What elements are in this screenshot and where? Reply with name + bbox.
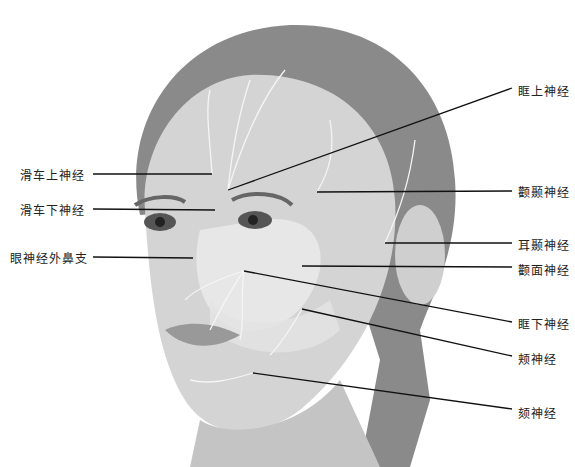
label-zygomaticofacial-nerve: 颧面神经: [518, 261, 570, 278]
label-supraorbital-nerve: 眶上神经: [518, 82, 570, 99]
diagram-stage: 滑车上神经 滑车下神经 眼神经外鼻支 眶上神经 颧颞神经 耳颞神经 颧面神经 眶…: [0, 0, 575, 467]
left-pupil: [248, 215, 258, 225]
label-supratrochlear-nerve: 滑车上神经: [20, 166, 85, 183]
ear-shape: [395, 205, 445, 305]
right-pupil: [155, 217, 165, 227]
label-infraorbital-nerve: 眶下神经: [518, 315, 570, 332]
label-infratrochlear-nerve: 滑车下神经: [20, 201, 85, 218]
label-mental-nerve: 颏神经: [518, 404, 557, 421]
label-zygomaticotemporal-nerve: 颧颞神经: [518, 183, 570, 200]
face-illustration: [0, 0, 575, 467]
label-auriculotemporal-nerve: 耳颞神经: [518, 236, 570, 253]
label-external-nasal-nerve: 眼神经外鼻支: [10, 249, 88, 266]
label-buccal-nerve: 颊神经: [518, 350, 557, 367]
